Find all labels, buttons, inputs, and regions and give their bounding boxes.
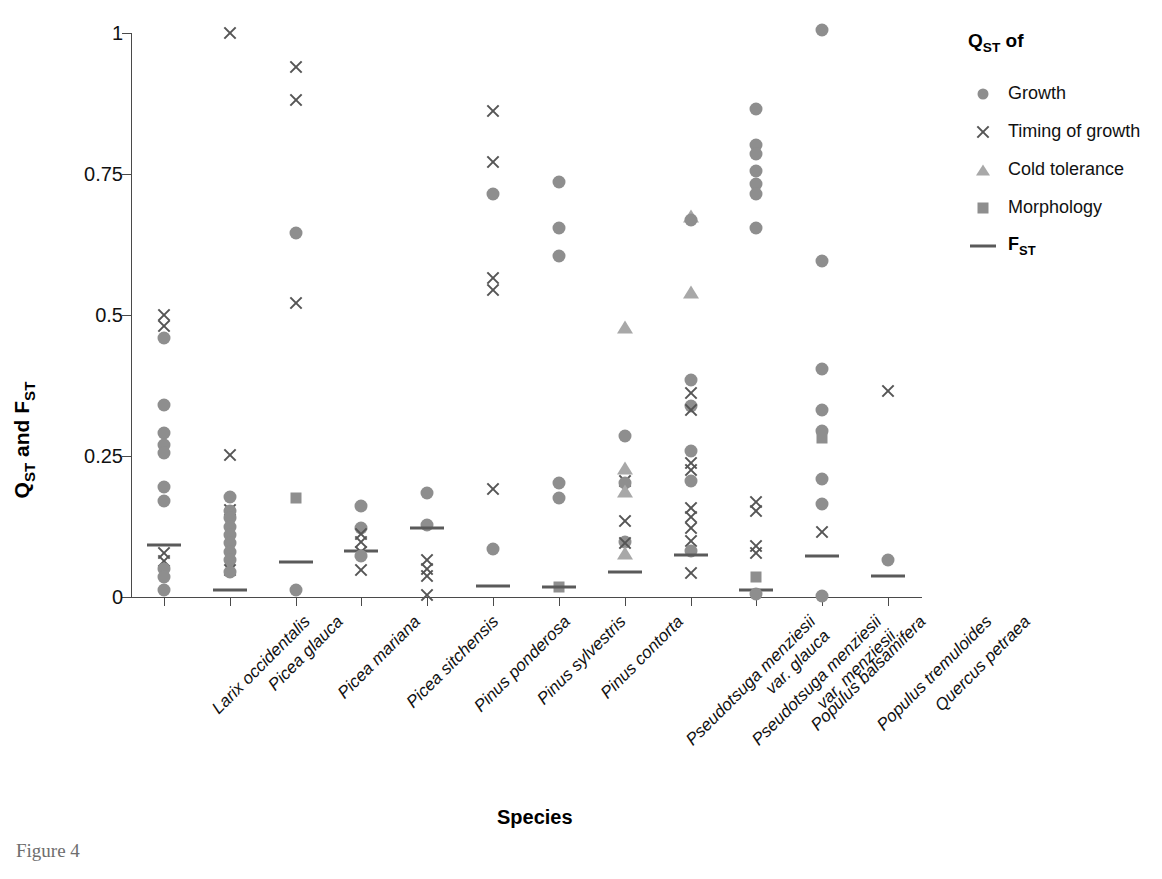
plot-area: 00.250.50.751 (131, 33, 921, 597)
timing-point (748, 503, 764, 519)
legend-item: Growth (968, 75, 1158, 113)
timing-point (814, 524, 830, 540)
legend-items: GrowthTiming of growthCold toleranceMorp… (968, 75, 1158, 227)
timing-point (419, 568, 435, 584)
timing-point (748, 545, 764, 561)
legend-title-sub: ST (983, 40, 1000, 55)
x-tick-mark (361, 597, 362, 606)
x-tick-mark (888, 597, 889, 606)
timing-point (683, 565, 699, 581)
x-tick-mark (691, 597, 692, 606)
growth-point (750, 221, 763, 234)
growth-point (750, 103, 763, 116)
x-tick-mark (493, 597, 494, 606)
timing-point (485, 103, 501, 119)
cold-tolerance-point (617, 547, 633, 560)
growth-point (487, 543, 500, 556)
x-axis-title: Species (497, 806, 573, 829)
y-axis-line (131, 33, 132, 598)
growth-point (552, 221, 565, 234)
growth-point (750, 165, 763, 178)
legend-item-label: Growth (1008, 83, 1066, 104)
timing-point (485, 282, 501, 298)
growth-point (816, 497, 829, 510)
growth-point (816, 24, 829, 37)
morphology-point (290, 493, 301, 504)
cold-tolerance-point (617, 321, 633, 334)
timing-point (222, 447, 238, 463)
timing-point (485, 154, 501, 170)
y-tick-label: 0.5 (95, 304, 123, 327)
morphology-point (751, 572, 762, 583)
y-axis-title-f-sub: ST (21, 381, 38, 400)
y-axis-title-mid: and (10, 413, 33, 462)
fst-line-marker (213, 589, 247, 592)
growth-point (750, 148, 763, 161)
legend-item: Cold tolerance (968, 151, 1158, 189)
legend-item: Timing of growth (968, 113, 1158, 151)
fst-line-marker (410, 527, 444, 530)
timing-point (683, 385, 699, 401)
growth-point (157, 495, 170, 508)
growth-point (223, 565, 236, 578)
growth-point (552, 477, 565, 490)
timing-point (222, 25, 238, 41)
growth-point (157, 571, 170, 584)
fst-line-marker (608, 570, 642, 573)
growth-point (750, 187, 763, 200)
legend-item-label: Timing of growth (1008, 121, 1140, 142)
y-axis-title-q-sub: ST (21, 462, 38, 481)
growth-point (289, 584, 302, 597)
y-tick-label: 0.25 (84, 445, 123, 468)
timing-point (288, 295, 304, 311)
legend-item-fst: FST (968, 227, 1158, 265)
timing-point (617, 513, 633, 529)
growth-point (816, 472, 829, 485)
y-axis-title-q: Q (10, 482, 33, 498)
y-tick-label: 1 (112, 22, 123, 45)
growth-point (157, 331, 170, 344)
fst-line-marker (674, 553, 708, 556)
growth-point (552, 492, 565, 505)
y-tick-mark (122, 315, 131, 316)
growth-point (816, 403, 829, 416)
x-axis-line (131, 597, 922, 598)
timing-point (419, 587, 435, 603)
timing-point (288, 59, 304, 75)
growth-point (750, 588, 763, 601)
x-tick-mark (164, 597, 165, 606)
cold-tolerance-point (683, 286, 699, 299)
figure-4-scatter-plot: QST and FST 00.250.50.751 Larix occident… (0, 0, 1162, 879)
legend-item-label: Cold tolerance (1008, 159, 1124, 180)
x-tick-mark (296, 597, 297, 606)
y-tick-label: 0.75 (84, 163, 123, 186)
timing-point (683, 402, 699, 418)
growth-point (487, 187, 500, 200)
growth-point (157, 584, 170, 597)
growth-point (618, 430, 631, 443)
y-axis-title: QST and FST (10, 381, 37, 498)
growth-point (816, 589, 829, 602)
legend-title-q: Q (968, 30, 983, 51)
timing-point (353, 562, 369, 578)
legend-title-tail: of (1000, 30, 1023, 51)
growth-point (552, 176, 565, 189)
fst-line-marker (542, 585, 576, 588)
growth-point (289, 227, 302, 240)
cross-x-icon (968, 122, 998, 142)
y-axis-title-f: F (10, 400, 33, 413)
timing-point (880, 383, 896, 399)
cold-tolerance-point (617, 484, 633, 497)
figure-caption: Figure 4 (16, 840, 80, 862)
legend: QST of GrowthTiming of growthCold tolera… (968, 30, 1158, 265)
growth-point (157, 481, 170, 494)
morphology-point (817, 432, 828, 443)
filled-circle-icon (968, 84, 998, 104)
growth-point (684, 214, 697, 227)
legend-item-fst-label: FST (1008, 234, 1036, 258)
legend-item-label: Morphology (1008, 197, 1102, 218)
fst-line-marker (871, 575, 905, 578)
fst-line-marker (476, 584, 510, 587)
growth-point (157, 399, 170, 412)
growth-point (355, 499, 368, 512)
